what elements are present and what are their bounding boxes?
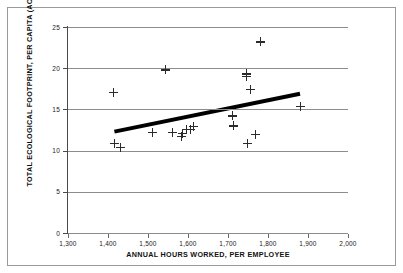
- x-tick-label: 1,800: [251, 240, 285, 247]
- gridline-y: [68, 109, 348, 110]
- figure-container: TOTAL ECOLOGICAL FOOTPRINT, PER CAPITA (…: [0, 0, 403, 273]
- data-point: [296, 102, 305, 111]
- x-axis-title: ANNUAL HOURS WORKED, PER EMPLOYEE: [68, 250, 348, 259]
- y-tick-mark: [63, 151, 67, 152]
- data-point: [251, 130, 260, 139]
- y-tick-label: 0: [38, 230, 60, 237]
- y-tick-label: 25: [38, 24, 60, 31]
- data-point: [256, 37, 265, 46]
- x-tick-mark: [348, 234, 349, 238]
- x-tick-label: 1,600: [171, 240, 205, 247]
- data-point: [246, 85, 255, 94]
- gridline-y: [68, 151, 348, 152]
- x-tick-label: 1,700: [211, 240, 245, 247]
- y-tick-mark: [63, 27, 67, 28]
- data-point: [116, 143, 125, 152]
- data-point: [242, 72, 251, 81]
- gridline-y: [68, 192, 348, 193]
- x-tick-mark: [108, 234, 109, 238]
- x-tick-mark: [148, 234, 149, 238]
- data-point: [161, 65, 170, 74]
- x-tick-label: 1,500: [131, 240, 165, 247]
- gridline-y: [68, 68, 348, 69]
- y-tick-mark: [63, 233, 67, 234]
- x-axis-line: [68, 233, 348, 234]
- y-tick-mark: [63, 192, 67, 193]
- gridline-y: [68, 27, 348, 28]
- data-point: [148, 128, 157, 137]
- trend-line: [68, 27, 348, 233]
- y-tick-label: 15: [38, 106, 60, 113]
- x-tick-mark: [308, 234, 309, 238]
- data-point: [243, 139, 252, 148]
- data-point: [109, 88, 118, 97]
- x-tick-label: 1,900: [291, 240, 325, 247]
- x-tick-label: 1,400: [91, 240, 125, 247]
- x-tick-label: 1,300: [51, 240, 85, 247]
- data-point: [189, 122, 198, 131]
- trend-line-segment: [114, 94, 300, 132]
- x-tick-label: 2,000: [331, 240, 365, 247]
- y-axis-title: TOTAL ECOLOGICAL FOOTPRINT, PER CAPITA (…: [25, 0, 34, 187]
- data-point: [229, 121, 238, 130]
- y-tick-label: 5: [38, 188, 60, 195]
- y-tick-label: 10: [38, 147, 60, 154]
- y-tick-mark: [63, 109, 67, 110]
- y-tick-mark: [63, 68, 67, 69]
- y-tick-label: 20: [38, 65, 60, 72]
- cropped-text-artifact: [30, 0, 150, 5]
- x-tick-mark: [228, 234, 229, 238]
- x-tick-mark: [188, 234, 189, 238]
- x-tick-mark: [268, 234, 269, 238]
- data-point: [228, 111, 237, 120]
- plot-area: [68, 27, 348, 233]
- x-tick-mark: [68, 234, 69, 238]
